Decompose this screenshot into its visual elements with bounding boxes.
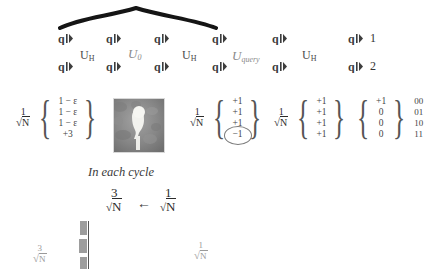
svg-text:q: q — [58, 32, 65, 45]
gate-subscript: H — [311, 54, 317, 63]
amplitude-bar-01 — [79, 239, 87, 253]
vector-initial-right-brace: } — [393, 99, 405, 137]
svg-text:q: q — [106, 32, 113, 45]
vector-after-oracle-circled-entry: −1 — [232, 129, 242, 140]
qubit-ket-icon-r1c5: q — [272, 32, 288, 45]
vector-initial-basis-label-0: 00 — [414, 96, 423, 107]
vector-after-oracle-left-brace: { — [213, 99, 225, 137]
qubit-ket-icon-r2c1: q — [58, 60, 74, 73]
vector-amplified-right-brace: } — [84, 99, 96, 137]
vector-amplified-entry-3: +3 — [58, 129, 77, 140]
vector-after-oracle-prefactor-denominator: √N — [188, 117, 206, 129]
vector-amplified-entry-0: 1 − ε — [58, 96, 77, 107]
vector-after-oracle-entry-1: +1 — [232, 107, 242, 118]
vector-after-oracle-prefactor: 1√N — [188, 107, 206, 129]
vector-after-oracle-entry-0: +1 — [232, 96, 242, 107]
gate-subscript: H — [191, 54, 197, 63]
chart-label-right-value: 1√N — [192, 241, 210, 262]
chart-label-left: 3√N — [31, 244, 49, 265]
qubit-ket-icon-r1c6: q — [348, 32, 364, 45]
qubit-ket-icon-r2c4: q — [212, 60, 228, 73]
vector-initial-basis-label-3: 11 — [414, 129, 423, 140]
qubit-ket-icon-r2c6: q — [348, 60, 364, 73]
vector-amplified: 1√N{1 − ε1 − ε1 − ε+3} — [14, 96, 101, 140]
qubit-ket-icon-r2c5: q — [272, 60, 288, 73]
vector-uniform-prefactor-denominator: √N — [272, 117, 290, 129]
gate-label-u-0-2: U0 — [128, 46, 141, 62]
svg-text:q: q — [154, 60, 161, 73]
vector-uniform-entry-2: +1 — [316, 118, 326, 129]
vector-initial-entry-3: 0 — [376, 129, 386, 140]
qubit-index-label-1: 1 — [370, 31, 376, 46]
gate-label-u-h-5: UH — [302, 48, 316, 63]
gate-base-symbol: U — [302, 48, 311, 62]
chart-label-left-value: 3√N — [31, 244, 49, 265]
gate-subscript: 0 — [137, 53, 141, 62]
vector-initial-entry-1: 0 — [376, 107, 386, 118]
vector-initial-basis-labels: 00011011 — [410, 96, 423, 140]
caption-growth-from: 1√N — [158, 186, 178, 213]
chart-label-left-value-denominator: √N — [31, 253, 49, 265]
gate-label-u-h-1: UH — [80, 48, 94, 63]
vector-initial: {+1000}00011011 — [352, 96, 423, 140]
vector-uniform-matrix: {+1+1+1+1} — [292, 96, 350, 140]
gate-subscript: H — [89, 54, 95, 63]
overbrace-icon — [58, 6, 218, 30]
vector-initial-left-brace: { — [357, 99, 369, 137]
vector-after-oracle-right-brace: } — [249, 99, 261, 137]
gate-base-symbol: U — [232, 48, 241, 63]
vector-uniform-entries: +1+1+1+1 — [314, 96, 328, 140]
caption-growth-from-wrap: 1√N — [158, 186, 178, 213]
svg-text:q: q — [212, 32, 219, 45]
vector-after-oracle-entry-3: −1 — [232, 129, 242, 140]
caption-in-each-cycle: In each cycle — [88, 165, 154, 180]
qubit-ket-icon-r1c4: q — [212, 32, 228, 45]
svg-text:q: q — [272, 32, 279, 45]
vector-uniform-right-brace: } — [333, 99, 345, 137]
svg-text:q: q — [106, 60, 113, 73]
grover-algorithm-figure: qqqqqqqqqqqq12UHU0UHUqueryUH1√N{1 − ε1 −… — [0, 0, 440, 269]
vector-after-oracle: 1√N{+1+1+1−1} — [188, 96, 267, 140]
qubit-ket-icon-r1c1: q — [58, 32, 74, 45]
vector-amplified-entry-2: 1 − ε — [58, 118, 77, 129]
gate-label-u-query-4: Uquery — [232, 48, 260, 64]
vector-uniform-prefactor: 1√N — [272, 107, 290, 129]
vector-amplified-prefactor-denominator: √N — [14, 117, 32, 129]
amplitude-bar-00 — [80, 221, 87, 235]
left-arrow-icon: ← — [137, 196, 151, 212]
svg-text:q: q — [58, 60, 65, 73]
svg-text:q: q — [348, 32, 355, 45]
vector-after-oracle-entries: +1+1+1−1 — [230, 96, 244, 140]
vector-initial-basis-label-2: 10 — [414, 118, 423, 129]
qubit-ket-icon-r1c3: q — [154, 32, 170, 45]
vector-amplified-matrix: {1 − ε1 − ε1 − ε+3} — [34, 96, 101, 140]
vector-uniform-entry-0: +1 — [316, 96, 326, 107]
chart-label-right: 1√N — [192, 241, 210, 262]
qubit-ket-icon-r1c2: q — [106, 32, 122, 45]
gate-label-u-h-3: UH — [182, 48, 196, 63]
vector-uniform: 1√N{+1+1+1+1} — [272, 96, 351, 140]
caption-growth-from-denominator: √N — [158, 200, 178, 214]
chart-label-right-value-denominator: √N — [192, 250, 210, 262]
gate-base-symbol: U — [128, 46, 137, 61]
vector-uniform-left-brace: { — [297, 99, 309, 137]
amplitude-bar-10 — [80, 257, 87, 269]
qubit-ket-icon-r2c3: q — [154, 60, 170, 73]
caption-growth-to-denominator: √N — [104, 200, 124, 214]
vector-initial-entries: +1000 — [374, 96, 388, 140]
vector-after-oracle-matrix: {+1+1+1−1} — [208, 96, 266, 140]
gate-base-symbol: U — [80, 48, 89, 62]
vector-amplified-entries: 1 − ε1 − ε1 − ε+3 — [56, 96, 79, 140]
caption-growth-to: 3√N — [104, 186, 124, 213]
vector-amplified-prefactor: 1√N — [14, 107, 32, 129]
svg-text:q: q — [348, 60, 355, 73]
vector-amplified-entry-1: 1 − ε — [58, 107, 77, 118]
chart-axis-line — [88, 221, 90, 269]
vector-uniform-entry-3: +1 — [316, 129, 326, 140]
amplitude-chart-after — [59, 221, 89, 269]
vector-uniform-entry-1: +1 — [316, 107, 326, 118]
vector-initial-basis-label-1: 01 — [414, 107, 423, 118]
svg-text:q: q — [212, 60, 219, 73]
target-bird-photo — [113, 98, 165, 153]
vector-amplified-left-brace: { — [39, 99, 51, 137]
